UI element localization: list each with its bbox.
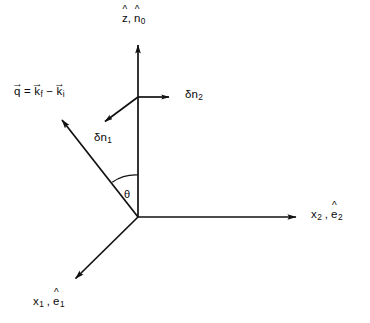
delta-n1-vector-line [105, 97, 138, 122]
e1-subscript: 1 [59, 300, 64, 309]
e2-subscript: 2 [337, 213, 342, 222]
kf-vector-symbol: k → [34, 86, 40, 98]
x1-symbol: x [33, 295, 39, 307]
theta-arc [112, 175, 138, 182]
delta-n1-symbol: δn [94, 131, 107, 143]
delta-n2-subscript: 2 [198, 93, 203, 102]
delta-n2-symbol: δn [185, 88, 198, 100]
x2-axis-label: x2, e ^ 2 [311, 209, 343, 221]
x1-e1-separator: , [47, 295, 50, 307]
q-vector-label: q → = k → f− k → i [14, 86, 64, 98]
x2-subscript: 2 [317, 213, 322, 222]
x2-symbol: x [311, 208, 317, 220]
delta-n2-label: δn2 [185, 89, 203, 101]
delta-n1-label: δn1 [94, 132, 112, 144]
x1-subscript: 1 [39, 300, 44, 309]
z-n0-separator: , [128, 12, 131, 24]
theta-angle-label: θ [124, 189, 130, 200]
x1-axis-line [76, 217, 139, 279]
z-axis-label: z ^ , n ^ 0 [122, 13, 145, 25]
q-vector-symbol: q → [14, 86, 20, 98]
vector-canvas [0, 0, 370, 323]
q-minus-operator: − [46, 85, 53, 97]
delta-n1-subscript: 1 [107, 136, 112, 145]
q-equals-sign: = [24, 85, 31, 97]
z-hat-symbol: z ^ [122, 13, 128, 25]
scattering-geometry-diagram: z ^ , n ^ 0 q → = k → f− k → i δn2 δn1 θ… [0, 0, 370, 323]
x1-axis-label: x1, e ^ 1 [33, 296, 65, 308]
n0-subscript: 0 [140, 17, 145, 26]
x2-e2-separator: , [325, 208, 328, 220]
kf-subscript: f [40, 90, 43, 99]
